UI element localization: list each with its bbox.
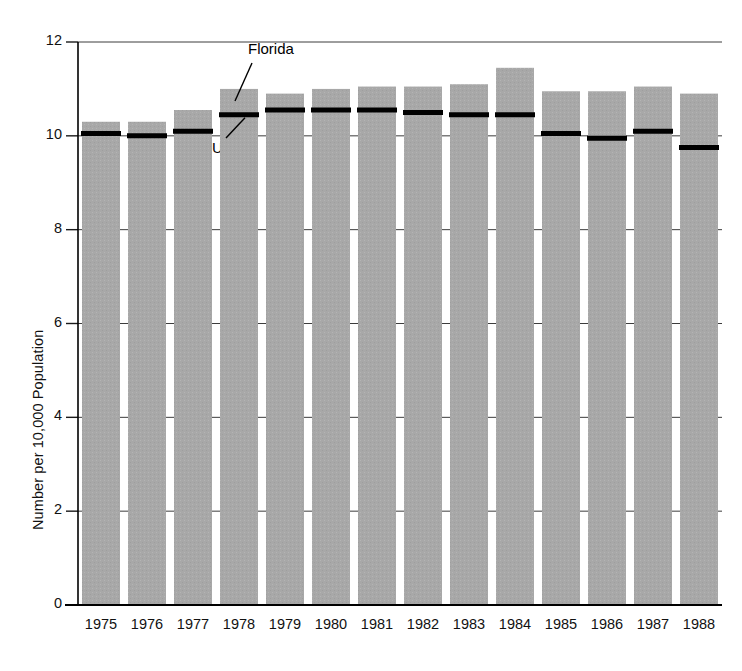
plot-area (0, 0, 742, 671)
bar (220, 89, 258, 605)
bar (588, 91, 626, 605)
bar (128, 122, 166, 605)
bars (82, 68, 718, 605)
bar (680, 94, 718, 605)
chart-container: Number per 10,000 Population 024681012 1… (0, 0, 742, 671)
bar (174, 110, 212, 605)
bar (82, 122, 120, 605)
bar (450, 84, 488, 605)
bar (358, 87, 396, 605)
bar (266, 94, 304, 605)
bar (634, 87, 672, 605)
bar (312, 89, 350, 605)
bar (404, 87, 442, 605)
bar (542, 91, 580, 605)
bar (496, 68, 534, 605)
